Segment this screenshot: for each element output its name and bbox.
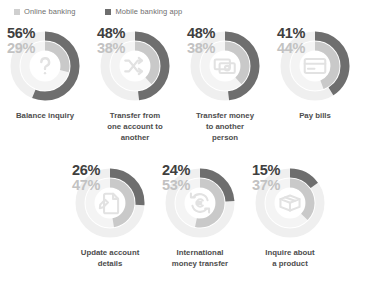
percent-stack: 56% 29% [0,26,35,56]
percent-online: 29% [0,41,35,56]
legend-item-mobile-banking-app: Mobile banking app [105,7,182,16]
donut-chart-pay-bills: 41% 44% [277,28,353,104]
donut-label: Update account details [66,248,154,270]
donut-label: Transfer money to another person [181,111,269,143]
percent-mobile: 48% [85,26,125,41]
donut-label: Balance inquiry [1,111,89,122]
percent-stack: 15% 37% [240,163,280,193]
percent-online: 37% [240,178,280,193]
percent-mobile: 26% [60,163,100,178]
donut-label: Inquire about a product [246,248,334,270]
percent-stack: 24% 53% [150,163,190,193]
legend-label-online-banking: Online banking [24,7,75,16]
donut-cell-balance-inquiry: 56% 29% Balance inquiry [0,28,90,143]
percent-online: 38% [85,41,125,56]
legend: Online banking Mobile banking app [14,7,182,16]
donut-chart-transfer-to-person: 48% 38% [187,28,263,104]
donut-cell-transfer-between-accounts: 48% 38% Transfer from one account to ano… [90,28,180,143]
donut-cell-update-account-details: 26% 47% Update account details [65,165,155,270]
donut-label: Transfer from one account to another [91,111,179,143]
donut-cell-pay-bills: 41% 44% Pay bills [270,28,360,143]
percent-stack: 48% 38% [175,26,215,56]
percent-stack: 41% 44% [265,26,305,56]
donut-chart-update-account-details: 26% 47% [72,165,148,241]
percent-online: 53% [150,178,190,193]
donut-cell-inquire-about-product: 15% 37% Inquire about a product [245,165,335,270]
percent-stack: 48% 38% [85,26,125,56]
donut-row-top: 56% 29% Balance inquiry [0,28,391,143]
percent-mobile: 48% [175,26,215,41]
square-swatch-icon [105,9,111,15]
donut-cell-transfer-to-person: 48% 38% Transfer money to another person [180,28,270,143]
donut-label: Pay bills [271,111,359,122]
donut-chart-inquire-about-product: 15% 37% [252,165,328,241]
donut-chart-transfer-between-accounts: 48% 38% [97,28,173,104]
percent-online: 44% [265,41,305,56]
percent-mobile: 24% [150,163,190,178]
percent-online: 38% [175,41,215,56]
donut-chart-international-money-transfer: 24% 53% [162,165,238,241]
percent-mobile: 56% [0,26,35,41]
square-swatch-icon [14,9,20,15]
percent-online: 47% [60,178,100,193]
percent-mobile: 41% [265,26,305,41]
percent-stack: 26% 47% [60,163,100,193]
legend-label-mobile-banking-app: Mobile banking app [115,7,182,16]
percent-mobile: 15% [240,163,280,178]
legend-item-online-banking: Online banking [14,7,75,16]
donut-row-bottom: 26% 47% Update account details [65,165,391,270]
donut-label: International money transfer [156,248,244,270]
donut-chart-balance-inquiry: 56% 29% [7,28,83,104]
banking-channel-usage-infographic: Online banking Mobile banking app [0,0,391,307]
donut-cell-international-money-transfer: 24% 53% International money transfer [155,165,245,270]
